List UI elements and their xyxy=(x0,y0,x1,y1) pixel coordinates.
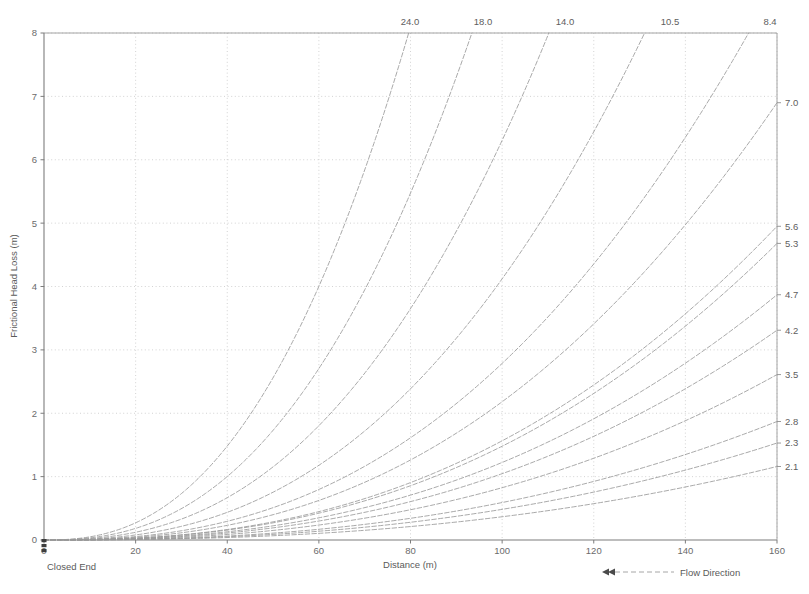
top-curve-label: 18.0 xyxy=(474,16,493,27)
y-tick-label: 8 xyxy=(32,27,37,38)
y-tick-label: 5 xyxy=(32,218,37,229)
y-tick-label: 0 xyxy=(32,534,37,545)
x-tick-label: 80 xyxy=(405,545,416,556)
horizontal-gridlines xyxy=(44,33,777,477)
curve-4-7 xyxy=(44,295,777,540)
top-curve-labels: 24.018.014.010.58.4 xyxy=(401,16,777,27)
flow-direction-label: Flow Direction xyxy=(680,567,740,578)
y-tick-label: 2 xyxy=(32,408,37,419)
top-curve-label: 24.0 xyxy=(401,16,420,27)
chart-container: 012345678 020406080100120140160 24.018.0… xyxy=(0,0,809,594)
curve-2-8 xyxy=(44,421,777,540)
right-curve-label: 5.3 xyxy=(785,238,798,249)
x-axis-ticks: 020406080100120140160 xyxy=(41,540,785,556)
top-curve-label: 8.4 xyxy=(763,16,776,27)
top-curve-label: 14.0 xyxy=(556,16,575,27)
curve-8-4 xyxy=(44,33,749,540)
right-curve-label: 2.1 xyxy=(785,461,798,472)
top-curve-label: 10.5 xyxy=(661,16,680,27)
chart-svg: 012345678 020406080100120140160 24.018.0… xyxy=(0,0,809,594)
y-tick-label: 1 xyxy=(32,471,37,482)
right-curve-label: 3.5 xyxy=(785,369,798,380)
right-curve-label: 5.6 xyxy=(785,221,798,232)
curve-2-3 xyxy=(44,443,777,540)
right-curve-label: 2.8 xyxy=(785,416,798,427)
x-tick-label: 100 xyxy=(494,545,510,556)
x-tick-label: 140 xyxy=(677,545,693,556)
right-curve-label: 7.0 xyxy=(785,97,798,108)
y-tick-label: 6 xyxy=(32,154,37,165)
x-tick-label: 20 xyxy=(130,545,141,556)
closed-end-annotation: Closed End xyxy=(47,561,96,572)
right-curve-label: 4.7 xyxy=(785,289,798,300)
x-tick-label: 60 xyxy=(314,545,325,556)
y-tick-label: 4 xyxy=(32,281,37,292)
flow-direction-legend: Flow Direction xyxy=(602,567,740,578)
right-curve-label: 4.2 xyxy=(785,325,798,336)
x-axis-title: Distance (m) xyxy=(383,559,437,570)
closed-end-marker xyxy=(42,539,47,552)
x-tick-label: 160 xyxy=(769,545,785,556)
curve-2-1 xyxy=(44,466,777,540)
right-curve-labels: 7.05.65.34.74.23.52.82.32.1 xyxy=(777,97,798,472)
y-tick-label: 7 xyxy=(32,91,37,102)
y-axis-ticks: 012345678 xyxy=(32,27,44,545)
right-curve-label: 2.3 xyxy=(785,437,798,448)
flow-arrow-icon-2 xyxy=(608,569,615,576)
x-tick-label: 120 xyxy=(586,545,602,556)
flow-arrow-icon xyxy=(602,569,609,576)
y-axis-title: Frictional Head Loss (m) xyxy=(8,234,19,337)
x-tick-label: 40 xyxy=(222,545,233,556)
y-tick-label: 3 xyxy=(32,344,37,355)
